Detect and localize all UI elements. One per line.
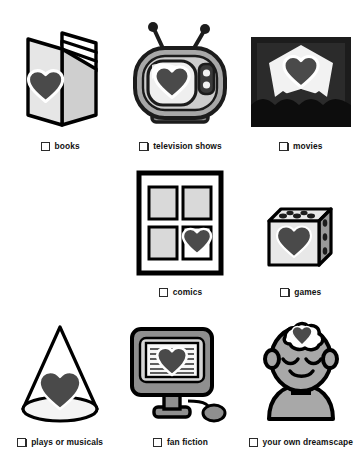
checklist-item-games[interactable]: games bbox=[241, 154, 361, 300]
checkbox-fan-fiction[interactable] bbox=[153, 438, 162, 447]
checklist-item-label: comics bbox=[173, 288, 202, 296]
checklist-item-label: books bbox=[55, 142, 80, 150]
checkbox-movies[interactable] bbox=[279, 142, 288, 151]
open-book-art bbox=[0, 6, 120, 131]
antenna-tip-icon bbox=[148, 22, 158, 32]
retro-television-art bbox=[120, 6, 240, 131]
checklist-item-label: television shows bbox=[153, 142, 222, 150]
dreamscape-head-art bbox=[241, 300, 361, 427]
theater-seats-icon bbox=[251, 99, 351, 127]
stage-spotlight-cone-icon bbox=[13, 321, 107, 427]
mouse-icon bbox=[203, 405, 225, 421]
checklist-grid: books bbox=[0, 6, 361, 449]
checklist-item-plays-or-musicals[interactable]: plays or musicals bbox=[0, 300, 120, 449]
checkbox-label-row[interactable]: fan fiction bbox=[153, 434, 208, 449]
checkbox-books[interactable] bbox=[41, 142, 50, 151]
retro-television-icon bbox=[128, 17, 232, 131]
movie-theater-screen-icon bbox=[247, 31, 355, 131]
checkbox-label-row[interactable]: games bbox=[280, 284, 321, 300]
checklist-row: plays or musicals bbox=[0, 300, 361, 449]
dice-cube-icon bbox=[259, 203, 343, 277]
tv-knob-panel-icon bbox=[199, 64, 214, 94]
head-with-thought-cloud-icon bbox=[249, 315, 353, 427]
checklist-item-label: fan fiction bbox=[167, 438, 208, 446]
checkbox-comics[interactable] bbox=[159, 288, 168, 297]
checkbox-label-row[interactable]: books bbox=[41, 138, 80, 154]
tv-knob-icon bbox=[203, 69, 210, 76]
checklist-item-movies[interactable]: movies bbox=[241, 6, 361, 154]
dice-pips-right bbox=[322, 219, 327, 255]
checklist-item-label: games bbox=[294, 288, 321, 296]
checkbox-label-row[interactable]: television shows bbox=[139, 138, 222, 154]
checklist-sheet: books bbox=[0, 0, 361, 449]
checklist-item-label: your own dreamscape bbox=[263, 438, 353, 446]
checklist-item-your-own-dreamscape[interactable]: your own dreamscape bbox=[241, 300, 361, 449]
open-book-icon bbox=[18, 19, 102, 131]
checklist-row: comics bbox=[0, 154, 361, 300]
comic-panel bbox=[149, 187, 177, 219]
movie-theater-art bbox=[241, 6, 361, 131]
comic-page-panels-icon bbox=[134, 169, 226, 277]
checkbox-your-own-dreamscape[interactable] bbox=[249, 438, 258, 447]
checkbox-label-row[interactable]: comics bbox=[159, 284, 202, 300]
checkbox-label-row[interactable]: plays or musicals bbox=[17, 434, 103, 449]
dice-art bbox=[241, 154, 361, 277]
ear-icon bbox=[323, 350, 337, 368]
checklist-item-comics[interactable]: comics bbox=[120, 154, 240, 300]
checkbox-label-row[interactable]: your own dreamscape bbox=[249, 434, 353, 449]
checklist-item-fan-fiction[interactable]: fan fiction bbox=[120, 300, 240, 449]
antenna-tip-icon bbox=[200, 24, 210, 34]
checkbox-label-row[interactable]: movies bbox=[279, 138, 322, 154]
checkbox-television-shows[interactable] bbox=[139, 142, 148, 151]
checklist-item-label: movies bbox=[293, 142, 322, 150]
checklist-item-books[interactable]: books bbox=[0, 6, 120, 154]
checkbox-games[interactable] bbox=[280, 288, 289, 297]
checklist-item-television-shows[interactable]: television shows bbox=[120, 6, 240, 154]
ear-icon bbox=[265, 350, 279, 368]
checklist-item-label: plays or musicals bbox=[31, 438, 103, 446]
checkbox-plays-or-musicals[interactable] bbox=[17, 438, 26, 447]
tv-knob-icon bbox=[203, 81, 210, 88]
comic-page-art bbox=[120, 154, 240, 277]
comic-panel bbox=[183, 187, 211, 219]
stage-spotlight-art bbox=[0, 300, 120, 427]
comic-panel bbox=[149, 227, 177, 259]
computer-monitor-art bbox=[120, 300, 240, 427]
computer-monitor-icon bbox=[126, 323, 234, 427]
checklist-row: books bbox=[0, 6, 361, 154]
